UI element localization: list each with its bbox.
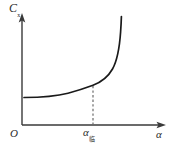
c-alpha-curve [24, 17, 121, 98]
y-axis-label: Cx [9, 2, 20, 16]
origin-label-text: O [10, 127, 18, 139]
critical-angle-label-subscript: 临 [89, 135, 95, 142]
critical-angle-label-text: α [83, 126, 89, 138]
y-axis-label-subscript: x [17, 12, 20, 18]
origin-label: O [10, 128, 18, 139]
x-axis-label: α [156, 129, 162, 140]
y-axis-label-text: C [9, 1, 17, 15]
x-axis-label-text: α [156, 128, 162, 140]
critical-angle-label: α临 [83, 127, 95, 140]
figure-container: Cx α O α临 [0, 0, 174, 148]
y-axis [19, 13, 26, 125]
